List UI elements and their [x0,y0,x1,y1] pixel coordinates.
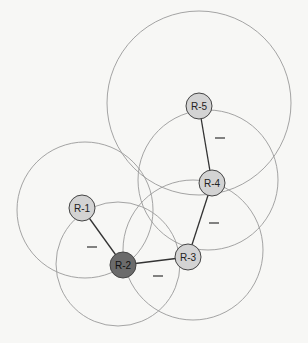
node-label: R-4 [204,178,221,189]
node-r-3[interactable]: R-3 [175,244,201,270]
range-circles [17,11,291,326]
node-label: R-3 [180,252,197,263]
network-diagram: R-1R-2R-3R-4R-5 [0,0,308,343]
node-label: R-1 [74,203,91,214]
node-label: R-2 [115,260,132,271]
node-label: R-5 [191,101,208,112]
node-r-2[interactable]: R-2 [110,252,136,278]
node-r-1[interactable]: R-1 [69,195,95,221]
node-r-4[interactable]: R-4 [199,170,225,196]
node-r-5[interactable]: R-5 [186,93,212,119]
links [82,106,212,265]
